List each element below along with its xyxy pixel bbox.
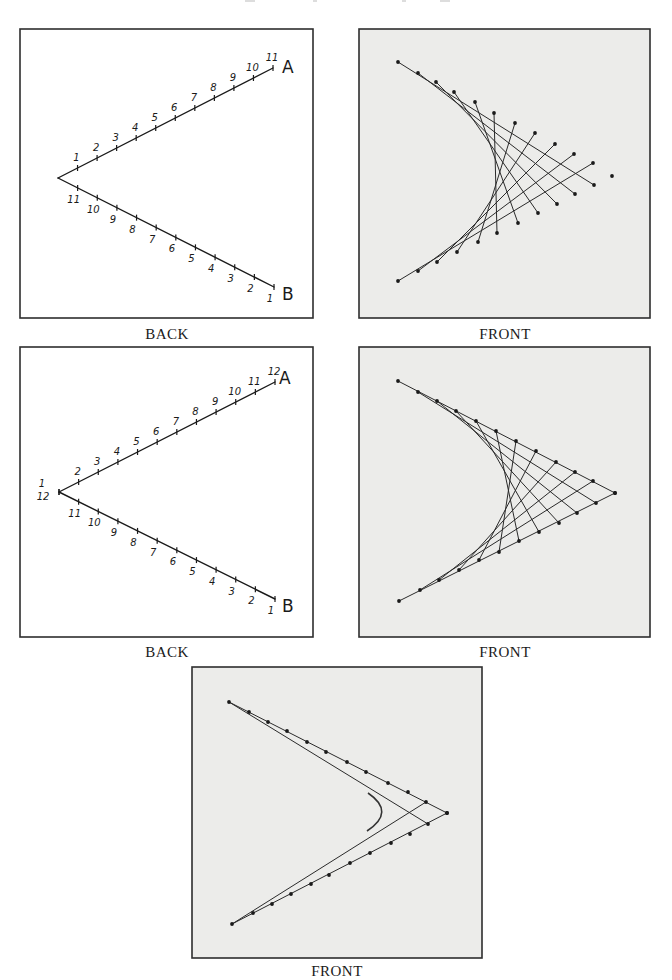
nail-dot <box>305 740 309 744</box>
nail-dot <box>434 80 438 84</box>
end-label-a: A <box>282 57 294 77</box>
tick-label: 5 <box>189 566 195 577</box>
nail-dot <box>492 111 496 115</box>
nail-dot <box>348 861 352 865</box>
tick-label: 2 <box>93 142 99 153</box>
nail-dot <box>364 770 368 774</box>
panel-frame <box>20 347 313 637</box>
caption-front-2: FRONT <box>479 644 531 660</box>
tick-label: 4 <box>114 446 120 457</box>
tick-label: 1 <box>268 605 274 616</box>
nail-dot <box>230 922 234 926</box>
panel-front-curve-start <box>192 667 482 958</box>
nail-dot <box>452 90 456 94</box>
tick-label: 7 <box>150 547 157 558</box>
nail-dot <box>592 183 596 187</box>
tick-label: 11 <box>266 52 279 63</box>
tick-label: 5 <box>152 112 158 123</box>
tick-label: 5 <box>133 436 139 447</box>
nail-dot <box>476 240 480 244</box>
tick-label: 11 <box>248 376 261 387</box>
nail-dot <box>610 174 614 178</box>
nail-dot <box>474 419 478 423</box>
nail-dot <box>575 511 579 515</box>
nail-dot <box>408 832 412 836</box>
nail-dot <box>477 558 481 562</box>
nail-dot <box>285 729 289 733</box>
tick-label: 7 <box>173 416 180 427</box>
caption-front-3: FRONT <box>311 963 363 979</box>
nail-dot <box>227 700 231 704</box>
tick-label: 6 <box>171 102 177 113</box>
nail-dot <box>386 781 390 785</box>
tick-label: 8 <box>130 537 136 548</box>
tick-label: 10 <box>228 386 241 397</box>
nail-dot <box>270 902 274 906</box>
tick-label: 1 <box>39 478 45 489</box>
tick-label: 9 <box>212 396 218 407</box>
nail-dot <box>435 260 439 264</box>
nail-dot <box>397 599 401 603</box>
nail-dot <box>454 409 458 413</box>
nail-dot <box>514 439 518 443</box>
nail-dot <box>553 142 557 146</box>
panel-front-11 <box>359 29 650 318</box>
nail-dot <box>406 790 410 794</box>
tick-label: 4 <box>209 576 215 587</box>
tick-label: 3 <box>228 273 234 284</box>
nail-dot <box>591 161 595 165</box>
tick-label: 3 <box>112 132 118 143</box>
tick-label: 11 <box>68 508 81 519</box>
tick-label: 2 <box>247 283 253 294</box>
nail-dot <box>437 578 441 582</box>
panel-frame <box>359 347 650 637</box>
nail-dot <box>513 121 517 125</box>
tick-label: 2 <box>74 466 80 477</box>
tick-label: 5 <box>188 253 194 264</box>
nail-dot <box>396 60 400 64</box>
panel-frame <box>192 667 482 958</box>
nail-dot <box>557 521 561 525</box>
panel-frame <box>359 29 650 318</box>
nail-dot <box>368 851 372 855</box>
nail-dot <box>497 550 501 554</box>
tick-label: 3 <box>94 456 100 467</box>
nail-dot <box>495 231 499 235</box>
nail-dot <box>251 911 255 915</box>
tick-label: 8 <box>192 406 198 417</box>
nail-dot <box>247 710 251 714</box>
string-art-figure: 12345678910111110987654321AB123456789101… <box>0 0 672 980</box>
nail-dot <box>555 202 559 206</box>
end-label-b: B <box>282 596 294 616</box>
nail-dot <box>418 588 422 592</box>
tick-label: 10 <box>87 204 100 215</box>
caption-back-1: BACK <box>145 326 189 342</box>
tick-label: 7 <box>191 92 198 103</box>
tick-label: 10 <box>246 62 259 73</box>
nail-dot <box>591 479 595 483</box>
nail-dot <box>594 501 598 505</box>
nail-dot <box>517 539 521 543</box>
panel-front-12 <box>359 347 650 637</box>
tick-label: 6 <box>153 426 159 437</box>
panel-back-12: 123456789101112121110987654321AB <box>20 347 313 637</box>
nail-dot <box>554 460 558 464</box>
nail-dot <box>327 873 331 877</box>
tick-label: 4 <box>132 122 138 133</box>
tick-label: 6 <box>170 556 176 567</box>
tick-label: 9 <box>230 72 236 83</box>
nail-dot <box>309 882 313 886</box>
nail-dot <box>416 390 420 394</box>
nail-dot <box>573 470 577 474</box>
panels: 12345678910111110987654321AB123456789101… <box>20 29 650 958</box>
tick-label: 8 <box>129 224 135 235</box>
nail-dot <box>516 221 520 225</box>
panel-frame <box>20 29 313 318</box>
panel-back-11: 12345678910111110987654321AB <box>20 29 313 318</box>
nail-dot <box>416 71 420 75</box>
tick-label: 8 <box>210 82 216 93</box>
tick-label: 2 <box>248 595 254 606</box>
nail-dot <box>537 530 541 534</box>
tick-label: 12 <box>37 491 50 502</box>
end-label-a: A <box>279 368 291 388</box>
